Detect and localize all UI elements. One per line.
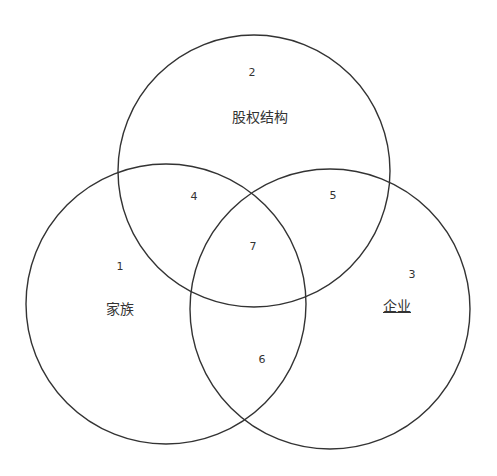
region-number-4: 4 (191, 190, 198, 204)
set-label-enterprise: 企业 (383, 299, 411, 313)
set-label-family: 家族 (106, 302, 134, 316)
region-number-7: 7 (250, 240, 257, 254)
region-number-6: 6 (259, 353, 266, 367)
region-number-1: 1 (117, 260, 124, 274)
region-number-5: 5 (330, 189, 337, 203)
region-number-3: 3 (409, 268, 416, 282)
circle-enterprise (190, 169, 470, 449)
circle-family (26, 164, 306, 444)
set-label-equity-structure: 股权结构 (232, 110, 288, 124)
region-number-2: 2 (249, 66, 256, 80)
